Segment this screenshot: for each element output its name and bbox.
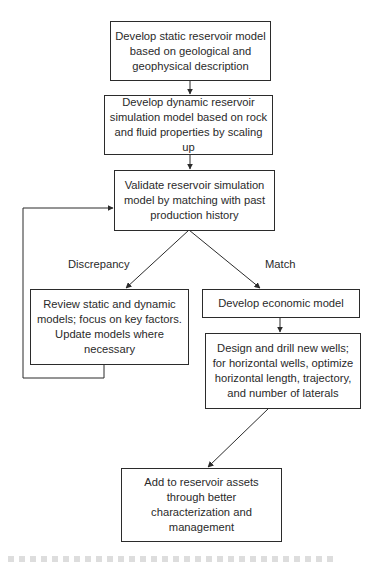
node-develop-economic-model-label: Develop economic model [218, 296, 344, 311]
node-dynamic-simulation-model: Develop dynamic reservoir simulation mod… [104, 95, 273, 155]
node-add-reservoir-assets: Add to reservoir assets through better c… [121, 468, 282, 542]
edge-label-match: Match [265, 257, 295, 271]
node-static-reservoir-model: Develop static reservoir model based on … [110, 21, 271, 81]
arrow-validate-to-review [126, 230, 189, 288]
node-validate-simulation-model: Validate reservoir simulation model by m… [114, 170, 275, 231]
node-dynamic-simulation-model-label: Develop dynamic reservoir simulation mod… [109, 95, 268, 155]
node-validate-simulation-model-label: Validate reservoir simulation model by m… [124, 178, 265, 223]
cropped-caption-fragment [8, 556, 338, 562]
edge-label-discrepancy: Discrepancy [68, 257, 130, 271]
node-design-drill-wells: Design and drill new wells; for horizont… [205, 333, 361, 409]
node-add-reservoir-assets-label: Add to reservoir assets through better c… [144, 475, 258, 535]
node-develop-economic-model: Develop economic model [202, 289, 360, 318]
node-static-reservoir-model-label: Develop static reservoir model based on … [115, 29, 265, 74]
node-review-models: Review static and dynamic models; focus … [30, 289, 189, 365]
arrow-design-wells-to-add-assets [208, 408, 269, 467]
node-review-models-label: Review static and dynamic models; focus … [37, 297, 182, 357]
node-design-drill-wells-label: Design and drill new wells; for horizont… [213, 341, 354, 401]
arrow-validate-to-economic [189, 230, 260, 288]
